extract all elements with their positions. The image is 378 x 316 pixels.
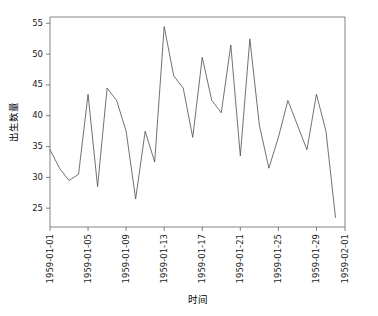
chart-figure: 25 30 35 40 45 50 55 1959-01-01 1959-01-… bbox=[0, 0, 378, 316]
x-tick-label: 1959-02-01 bbox=[340, 234, 350, 283]
x-tick-label: 1959-01-01 bbox=[45, 234, 55, 283]
x-tick-label: 1959-01-05 bbox=[83, 234, 93, 283]
x-tick-label: 1959-01-25 bbox=[273, 234, 283, 283]
y-tick-label: 30 bbox=[32, 172, 43, 182]
y-tick-label: 35 bbox=[32, 141, 43, 151]
x-tick-label: 1959-01-21 bbox=[235, 234, 245, 283]
x-tick-label: 1959-01-13 bbox=[159, 234, 169, 283]
figure-background bbox=[0, 0, 378, 316]
y-axis-title: 出生数量 bbox=[8, 102, 19, 142]
y-tick-label: 25 bbox=[32, 203, 43, 213]
x-axis-title: 时间 bbox=[188, 294, 208, 305]
y-tick-label: 45 bbox=[32, 79, 43, 89]
x-tick-label: 1959-01-09 bbox=[121, 234, 131, 283]
y-tick-label: 40 bbox=[32, 110, 43, 120]
x-tick-label: 1959-01-17 bbox=[197, 234, 207, 283]
x-tick-label: 1959-01-29 bbox=[311, 234, 321, 283]
y-tick-label: 55 bbox=[32, 18, 43, 28]
y-tick-label: 50 bbox=[32, 49, 43, 59]
line-chart-canvas: 25 30 35 40 45 50 55 1959-01-01 1959-01-… bbox=[0, 0, 378, 316]
